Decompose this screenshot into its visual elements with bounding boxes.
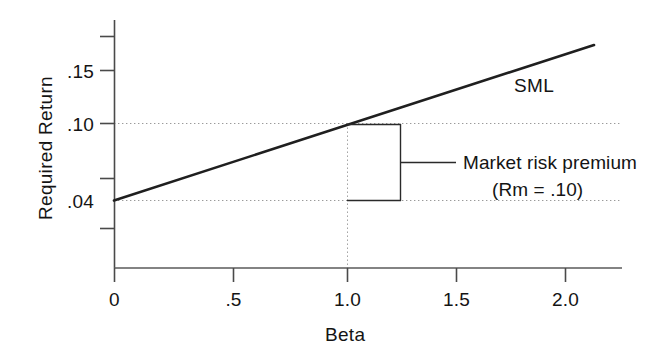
sml-chart-figure: Required Return .15 .10 .04 0 .5 1.0 1.5… [0,0,652,362]
x-tick-label-1-0: 1.0 [324,290,371,309]
x-tick-label-0-5: .5 [213,290,254,309]
x-tick-label-0: 0 [94,290,135,309]
x-tick-label-1-5: 1.5 [433,290,480,309]
y-tick-label-04: .04 [50,192,94,211]
x-axis-title: Beta [325,325,365,344]
sml-label: SML [514,76,554,95]
x-tick-label-2-0: 2.0 [542,290,589,309]
y-tick-label-10: .10 [50,115,94,134]
premium-label-line2: (Rm = .10) [492,180,583,199]
y-tick-label-15: .15 [50,62,94,81]
premium-label-line1: Market risk premium [463,153,637,172]
